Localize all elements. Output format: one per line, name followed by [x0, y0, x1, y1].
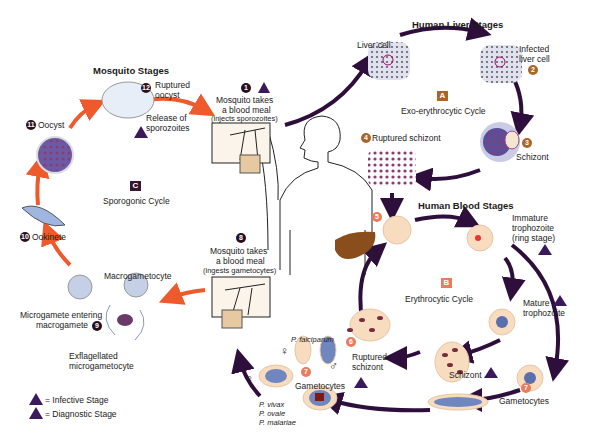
blood-stages-title: Human Blood Stages — [418, 200, 514, 211]
diagnostic-stage-icon — [29, 407, 43, 419]
species-vivax: P. vivax — [259, 400, 284, 409]
species-ovale: P. ovale — [259, 409, 285, 418]
step-9-line2: macrogamete — [36, 320, 88, 330]
exflagellated-line2: microgametocyte — [69, 361, 134, 371]
ring-line1: Immature — [512, 213, 548, 223]
gametocytes-label-left: Gametocytes — [295, 381, 345, 391]
diagnostic-stage-icon — [354, 377, 368, 388]
female-symbol: ♀ — [280, 346, 289, 356]
liver-organ — [335, 232, 375, 259]
step-4-badge: 4 — [361, 133, 371, 143]
liver-stages-title: Human Liver Stages — [412, 19, 503, 30]
release-line1: Release of — [146, 113, 187, 123]
cycle-c-badge: C — [130, 181, 141, 191]
infective-stage-icon — [134, 126, 148, 138]
step-2-badge: 2 — [528, 65, 538, 75]
diagnostic-stage-icon — [553, 295, 567, 306]
step-4-label: Ruptured schizont — [372, 133, 441, 143]
macrogametocyte-label: Macrogametocyte — [104, 271, 172, 281]
mosquito-bite-inset-1 — [212, 123, 270, 173]
mosquito-stages-title: Mosquito Stages — [93, 65, 169, 76]
cycle-a-badge: A — [437, 91, 448, 101]
step-10-label: Ookinete — [32, 232, 66, 242]
liver-cell-label: Liver cell — [357, 40, 391, 50]
step-10-badge: 10 — [20, 232, 30, 242]
step-8-line2: a blood meal — [216, 256, 265, 266]
exflagellated-line1: Exflagellated — [69, 351, 118, 361]
step-8-line1: Mosquito takes — [210, 246, 267, 256]
mature-line1: Mature — [523, 298, 549, 308]
step-6-badge: 6 — [346, 337, 356, 347]
legend-infective-label: = Infective Stage — [45, 395, 109, 405]
legend-diagnostic-label: = Diagnostic Stage — [45, 409, 117, 419]
ring-line3: (ring stage) — [512, 233, 555, 243]
step-7-badge-right: 7 — [521, 383, 531, 393]
step-7-badge-left: 7 — [301, 367, 311, 377]
female-symbol: ♀ — [245, 374, 254, 384]
step-11-badge: 11 — [26, 120, 36, 130]
step-2-line1: Infected — [519, 44, 549, 54]
species-malariae: P. malariae — [259, 418, 296, 427]
step-12-line1: Ruptured — [155, 80, 190, 90]
diagnostic-stage-icon — [538, 244, 552, 255]
step-5-badge: 5 — [372, 212, 382, 222]
schizont-label: Schizont — [449, 370, 482, 380]
mature-line2: trophozoite — [523, 308, 565, 318]
diagnostic-stage-icon — [484, 367, 498, 378]
step-6-line1: Ruptured — [352, 352, 387, 362]
step-2-line2: liver cell — [519, 54, 550, 64]
sporogonic-cycle-label: Sporogonic Cycle — [103, 196, 170, 206]
mosquito-bite-inset-2 — [212, 277, 270, 328]
exo-erythrocytic-cycle-label: Exo-erythrocytic Cycle — [401, 106, 486, 116]
step-1-line3: (injects sporozoites) — [211, 114, 278, 123]
step-1-badge: 1 — [241, 83, 251, 93]
step-1-line1: Mosquito takes — [216, 95, 273, 105]
release-line2: sporozoites — [146, 123, 189, 133]
step-9-line1: Microgamete entering — [20, 310, 102, 320]
step-12-badge: 12 — [141, 83, 151, 93]
step-3-label: Schizont — [516, 152, 549, 162]
erythrocytic-cycle-label: Erythrocytic Cycle — [405, 294, 473, 304]
male-symbol: ♂ — [332, 400, 341, 410]
step-8-line3: (ingests gametocytes) — [203, 266, 276, 275]
step-11-label: Oocyst — [38, 120, 64, 130]
step-12-line2: oocyst — [155, 90, 180, 100]
infective-stage-icon — [258, 82, 270, 93]
falciparum-label: P. falciparum — [291, 335, 334, 344]
step-6-line2: schizont — [352, 362, 383, 372]
step-3-badge: 3 — [522, 138, 532, 148]
infective-stage-icon — [29, 393, 43, 405]
ring-line2: trophozoite — [512, 223, 554, 233]
step-9-badge: 9 — [92, 321, 102, 331]
gametocytes-label-right: Gametocytes — [499, 396, 549, 406]
diagram-graphics — [0, 0, 589, 444]
cycle-b-badge: B — [441, 278, 452, 288]
step-8-badge: 8 — [236, 233, 246, 243]
male-symbol: ♂ — [329, 361, 338, 371]
